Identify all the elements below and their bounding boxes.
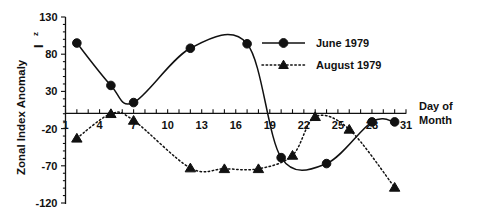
x-axis-title-line1: Day of <box>419 100 453 112</box>
x-tick-label: 31 <box>400 119 412 131</box>
data-point-marker <box>390 118 399 127</box>
zonal-index-anomaly-chart: 1308030-20-70-120 1471013161922252831 Zo… <box>0 0 481 221</box>
data-point-marker <box>185 163 195 172</box>
x-tick-label: 13 <box>196 119 208 131</box>
data-point-marker <box>277 153 286 162</box>
y-axis-title: Zonal Index Anomaly I z <box>15 32 46 175</box>
y-axis-major-ticks <box>61 17 66 203</box>
x-tick-label: 10 <box>162 119 174 131</box>
x-tick-label: 16 <box>230 119 242 131</box>
y-axis-tick-labels: 1308030-20-70-120 <box>35 11 57 209</box>
y-axis-symbol-subscript: z <box>31 32 40 36</box>
series-line-june-1979 <box>77 35 395 171</box>
data-point-marker <box>107 81 116 90</box>
y-tick-label: 30 <box>45 85 57 97</box>
data-point-marker <box>186 44 195 53</box>
data-point-marker <box>129 98 138 107</box>
legend-label-august: August 1979 <box>316 59 381 71</box>
data-point-marker <box>368 118 377 127</box>
y-axis-symbol: I <box>31 44 46 48</box>
y-axis-title-text: Zonal Index Anomaly <box>15 59 27 175</box>
legend-marker-circle <box>279 39 288 48</box>
data-point-marker <box>73 39 82 48</box>
legend-label-june: June 1979 <box>316 37 369 49</box>
chart-legend: June 1979 August 1979 <box>262 37 381 71</box>
legend-entry-june[interactable]: June 1979 <box>262 37 369 49</box>
y-tick-label: 130 <box>39 11 57 23</box>
legend-entry-august[interactable]: August 1979 <box>262 59 381 71</box>
y-tick-label: -20 <box>42 123 58 135</box>
y-tick-label: 80 <box>45 48 57 60</box>
chart-figure: 1308030-20-70-120 1471013161922252831 Zo… <box>0 0 481 221</box>
y-tick-label: -70 <box>42 160 58 172</box>
x-axis-tick-labels: 1471013161922252831 <box>62 119 412 131</box>
data-point-marker <box>344 124 354 133</box>
x-axis-title: Day of Month <box>419 100 453 126</box>
x-axis-title-line2: Month <box>419 114 452 126</box>
data-point-marker <box>287 150 297 159</box>
data-point-marker <box>322 159 331 168</box>
x-tick-label: 22 <box>298 119 310 131</box>
data-point-marker <box>243 39 252 48</box>
x-tick-label: 1 <box>62 119 68 131</box>
y-tick-label: -120 <box>35 197 57 209</box>
data-point-marker <box>389 182 399 191</box>
